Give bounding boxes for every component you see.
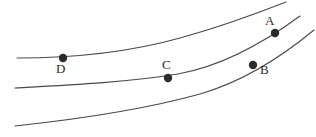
- point-b-dot: [249, 61, 257, 69]
- point-a-label: A: [265, 14, 274, 27]
- point-a-dot: [271, 29, 279, 37]
- middle-curve: [15, 16, 300, 88]
- point-c-label: C: [162, 58, 171, 71]
- point-d-label: D: [56, 62, 65, 75]
- point-b-label: B: [260, 63, 269, 76]
- curve-diagram: A B C D: [0, 0, 316, 137]
- point-c-dot: [164, 74, 172, 82]
